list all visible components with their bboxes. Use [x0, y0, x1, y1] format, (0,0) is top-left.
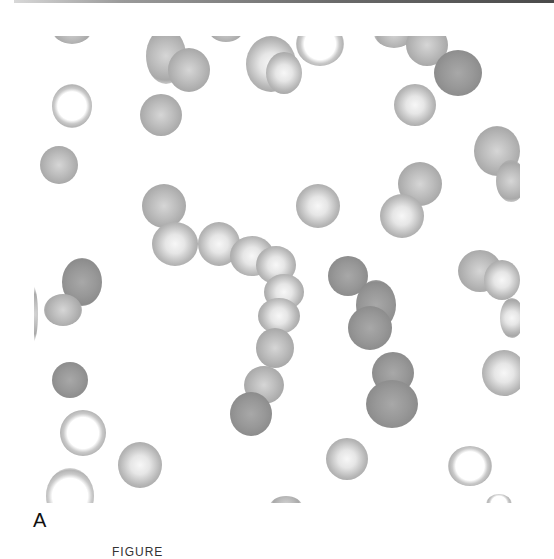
red-blood-cell [256, 328, 294, 368]
panel-label: A [33, 509, 46, 532]
red-blood-cell [52, 36, 92, 44]
red-blood-cell [380, 194, 424, 238]
red-blood-cell [208, 36, 244, 42]
red-blood-cell [152, 222, 198, 266]
red-blood-cell [46, 468, 94, 503]
red-blood-cell [434, 50, 482, 96]
top-rule [14, 0, 554, 3]
red-blood-cell [486, 494, 512, 503]
red-blood-cell [40, 146, 78, 184]
red-blood-cell [230, 392, 272, 436]
red-blood-cell [118, 442, 162, 488]
red-blood-cell [482, 350, 520, 396]
red-blood-cell [448, 446, 492, 486]
red-blood-cell [296, 36, 344, 66]
red-blood-cell [52, 84, 92, 128]
figure-caption: FIGURE [112, 545, 163, 559]
red-blood-cell [326, 438, 368, 480]
red-blood-cell [496, 160, 520, 202]
red-blood-cell [270, 496, 302, 503]
red-blood-cell [142, 184, 186, 228]
red-blood-cell [296, 184, 340, 228]
red-blood-cell [348, 306, 392, 350]
red-blood-cell [52, 362, 88, 398]
red-blood-cell [60, 410, 106, 456]
red-blood-cell [34, 286, 38, 342]
red-blood-cell [168, 48, 210, 92]
red-blood-cell [44, 294, 82, 326]
red-blood-cell [394, 84, 436, 126]
blood-cell-micrograph [34, 36, 520, 503]
red-blood-cell [266, 52, 302, 94]
red-blood-cell [484, 260, 520, 300]
red-blood-cell [500, 298, 520, 338]
red-blood-cell [140, 94, 182, 136]
red-blood-cell [366, 380, 418, 428]
